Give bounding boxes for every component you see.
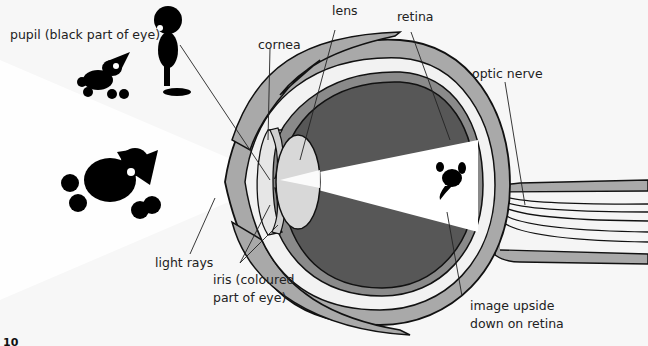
page-number: 10 (3, 336, 18, 346)
boy-figure (154, 6, 191, 96)
label-iris-line1: iris (coloured (213, 272, 295, 288)
label-retina: retina (397, 9, 434, 25)
eye-diagram (0, 0, 648, 346)
label-lens: lens (332, 3, 358, 19)
small-dog-figure (77, 52, 130, 99)
optic-nerve (495, 180, 648, 264)
label-iris-line2: part of eye) (213, 290, 286, 306)
label-optic-nerve: optic nerve (472, 66, 543, 82)
label-cornea: cornea (258, 37, 301, 53)
label-pupil: pupil (black part of eye) (10, 27, 160, 43)
label-image-line2: down on retina (470, 316, 564, 332)
label-light-rays: light rays (155, 255, 213, 271)
label-image-line1: image upside (470, 298, 554, 314)
